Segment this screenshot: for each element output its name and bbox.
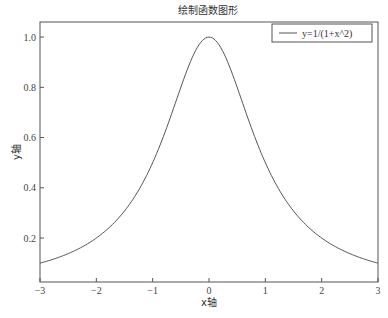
function-curve	[40, 37, 378, 263]
chart-title: 绘制函数图形	[178, 4, 238, 16]
x-axis-ticks: −3−2−10123	[35, 278, 381, 296]
x-tick-label: 3	[376, 285, 381, 296]
x-tick-label: −1	[147, 285, 158, 296]
y-tick-label: 0.4	[24, 182, 37, 193]
x-tick-label: 0	[207, 285, 212, 296]
x-tick-label: 1	[263, 285, 268, 296]
y-tick-label: 0.8	[24, 82, 37, 93]
y-tick-label: 0.2	[24, 233, 37, 244]
x-tick-label: 2	[319, 285, 324, 296]
x-tick-label: −2	[91, 285, 102, 296]
y-axis-label: y轴	[10, 144, 22, 160]
legend-label: y=1/(1+x^2)	[302, 28, 352, 40]
y-tick-label: 1.0	[24, 32, 37, 43]
legend: y=1/(1+x^2)	[272, 24, 372, 42]
plot-frame	[40, 22, 378, 282]
y-axis-ticks: 0.20.40.60.81.0	[24, 32, 45, 244]
x-tick-label: −3	[35, 285, 46, 296]
x-axis-label: x轴	[201, 296, 217, 308]
chart: 绘制函数图形 0.20.40.60.81.0 −3−2−10123 x轴 y轴 …	[0, 0, 388, 318]
y-tick-label: 0.6	[24, 132, 37, 143]
